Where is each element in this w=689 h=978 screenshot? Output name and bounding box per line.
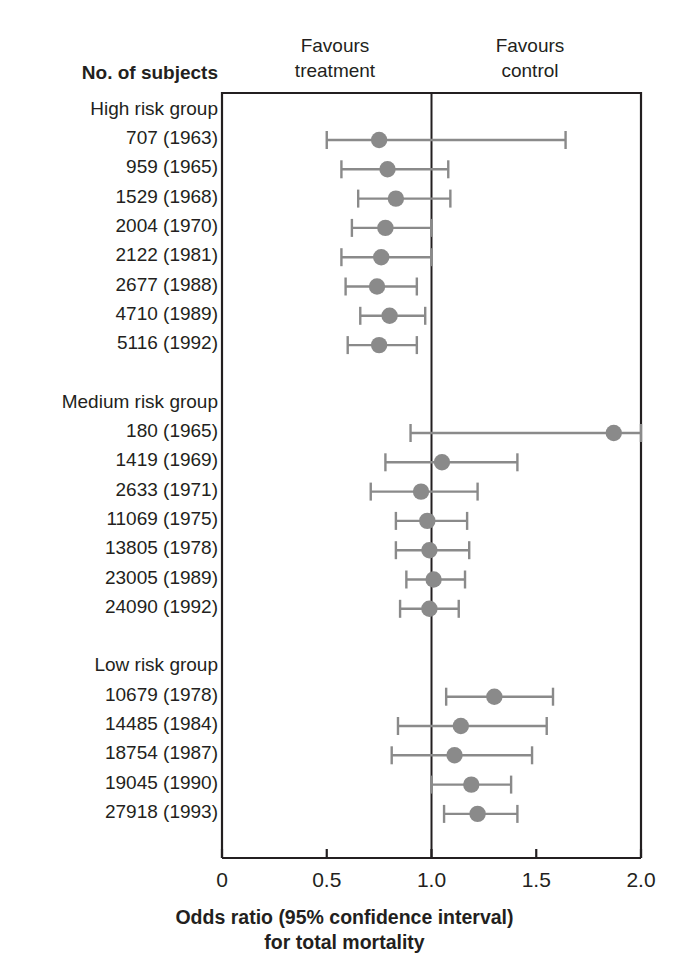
odds-ratio-marker — [606, 425, 622, 441]
forest-row — [396, 541, 469, 559]
odds-ratio-marker — [371, 132, 387, 148]
forest-row — [385, 453, 517, 471]
forest-plot-figure: No. of subjects Favours treatment Favour… — [0, 0, 689, 978]
forest-row — [327, 131, 566, 149]
odds-ratio-marker — [388, 190, 404, 206]
forest-row — [446, 688, 553, 706]
forest-row — [341, 248, 431, 266]
x-tick-label-1.5: 1.5 — [506, 868, 566, 892]
odds-ratio-marker — [421, 542, 437, 558]
odds-ratio-marker — [379, 161, 395, 177]
forest-row — [411, 424, 641, 442]
odds-ratio-marker — [369, 278, 385, 294]
odds-ratio-marker — [373, 249, 389, 265]
odds-ratio-marker — [434, 454, 450, 470]
forest-row — [398, 717, 547, 735]
x-tick-label-1.0: 1.0 — [402, 868, 462, 892]
forest-row — [358, 190, 450, 208]
odds-ratio-marker — [446, 747, 462, 763]
forest-row — [346, 278, 417, 296]
odds-ratio-marker — [425, 571, 441, 587]
odds-ratio-marker — [371, 337, 387, 353]
odds-ratio-marker — [463, 776, 479, 792]
odds-ratio-marker — [413, 483, 429, 499]
forest-row — [396, 512, 467, 530]
forest-row — [371, 483, 478, 501]
forest-row — [348, 336, 417, 354]
odds-ratio-marker — [453, 718, 469, 734]
forest-row — [352, 219, 432, 237]
odds-ratio-marker — [421, 601, 437, 617]
odds-ratio-marker — [377, 220, 393, 236]
x-tick-label-0: 0 — [192, 868, 252, 892]
forest-row — [400, 600, 459, 618]
forest-row — [406, 571, 465, 589]
forest-row — [392, 746, 532, 764]
x-axis-caption-line2: for total mortality — [0, 930, 689, 955]
forest-row — [360, 307, 425, 325]
x-axis-caption-line1: Odds ratio (95% confidence interval) — [0, 905, 689, 930]
odds-ratio-marker — [486, 689, 502, 705]
x-tick-label-0.5: 0.5 — [297, 868, 357, 892]
forest-plot-canvas — [0, 0, 689, 978]
odds-ratio-marker — [469, 806, 485, 822]
odds-ratio-marker — [381, 308, 397, 324]
forest-row — [432, 776, 512, 794]
forest-row — [444, 805, 517, 823]
odds-ratio-marker — [419, 513, 435, 529]
x-tick-label-2.0: 2.0 — [611, 868, 671, 892]
